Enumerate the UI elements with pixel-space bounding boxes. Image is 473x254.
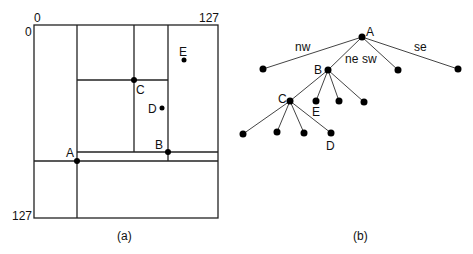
axis-x-start: 0	[34, 11, 41, 25]
tree-label-c: C	[278, 92, 287, 106]
tree-node-a	[359, 34, 366, 41]
tree-node-b-child-3	[336, 98, 343, 105]
panel-b-tree-nodes	[240, 34, 462, 138]
axis-x-end: 127	[199, 11, 219, 25]
edge-label-sw: sw	[362, 52, 377, 66]
edge-label-ne: ne	[345, 52, 359, 66]
point-a	[74, 158, 80, 164]
edge-label-nw: nw	[295, 40, 311, 54]
tree-node-e	[313, 98, 320, 105]
tree-node-sw	[395, 67, 402, 74]
tree-node-c-child-3	[301, 130, 308, 137]
panel-b-labels: A B C E D nw ne sw se (b)	[278, 25, 427, 243]
label-a: A	[66, 146, 74, 160]
tree-label-e: E	[312, 105, 320, 119]
tree-label-b: B	[314, 63, 322, 77]
label-b: B	[155, 138, 163, 152]
tree-node-nw	[260, 66, 267, 73]
tree-node-se	[455, 66, 462, 73]
edge-label-se: se	[414, 40, 427, 54]
panel-a-region-partition	[34, 25, 218, 218]
label-e: E	[179, 45, 187, 59]
panel-a-points	[74, 58, 187, 165]
point-b	[165, 149, 171, 155]
label-d: D	[148, 102, 157, 116]
tree-node-b-child-4	[361, 99, 368, 106]
tree-label-a: A	[366, 25, 374, 39]
tree-node-b	[325, 67, 332, 74]
outer-boundary	[34, 25, 218, 218]
tree-label-d: D	[326, 139, 335, 153]
tree-node-c-child-2	[274, 129, 281, 136]
axis-y-start: 0	[25, 25, 32, 39]
label-c: C	[136, 83, 145, 97]
caption-b: (b)	[353, 229, 368, 243]
point-d	[160, 106, 165, 111]
panel-a-labels: 0 127 0 127 A B C D E (a)	[12, 11, 219, 243]
tree-node-c-child-1	[240, 131, 247, 138]
quadtree-figure: 0 127 0 127 A B C D E (a)	[0, 0, 473, 254]
tree-node-d	[328, 130, 335, 137]
tree-node-c	[287, 98, 294, 105]
caption-a: (a)	[117, 229, 132, 243]
axis-y-end: 127	[12, 209, 32, 223]
